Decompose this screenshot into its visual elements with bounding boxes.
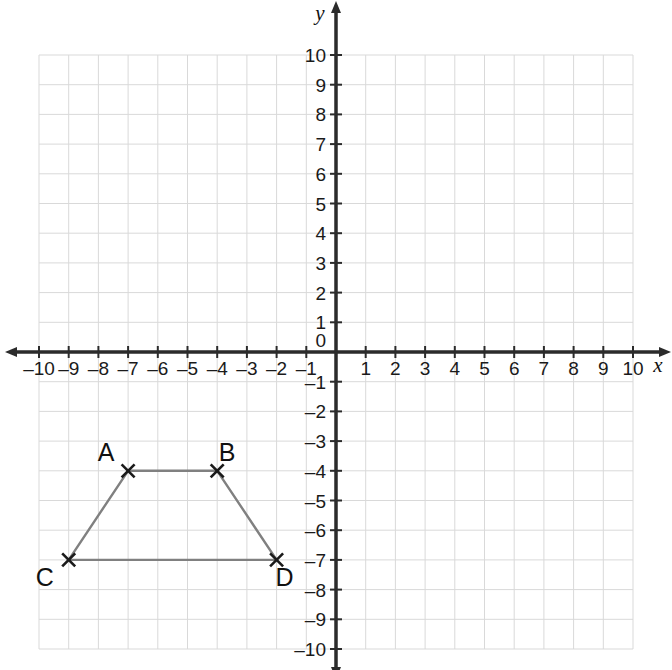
point-label-c: C	[36, 563, 54, 591]
x-tick-label: 1	[360, 358, 371, 379]
y-tick-label: –4	[305, 461, 327, 482]
y-tick-label: –10	[294, 639, 326, 660]
graph-canvas: –10–9–8–7–6–5–4–3–2–11234567891010987654…	[0, 0, 672, 670]
y-tick-label: –2	[305, 401, 326, 422]
y-axis-name: y	[313, 1, 325, 25]
y-tick-label: 3	[315, 253, 326, 274]
point-label-a: A	[98, 438, 115, 466]
y-tick-label: 5	[315, 194, 326, 215]
x-axis-name: x	[652, 353, 663, 377]
x-tick-label: 6	[509, 358, 520, 379]
point-label-d: D	[276, 563, 294, 591]
x-tick-label: 7	[539, 358, 550, 379]
x-tick-label: –2	[266, 358, 287, 379]
x-tick-label: –8	[88, 358, 109, 379]
y-tick-label: –6	[305, 520, 326, 541]
x-tick-label: 10	[622, 358, 643, 379]
x-tick-label: –3	[236, 358, 257, 379]
y-tick-label: –3	[305, 431, 326, 452]
y-tick-label: 9	[315, 75, 326, 96]
origin-label: 0	[315, 330, 326, 351]
coordinate-plane-figure: –10–9–8–7–6–5–4–3–2–11234567891010987654…	[0, 0, 672, 670]
point-label-b: B	[219, 438, 236, 466]
x-tick-label: 9	[598, 358, 609, 379]
y-tick-label: –1	[305, 372, 326, 393]
x-tick-label: 2	[390, 358, 401, 379]
x-tick-label: 5	[479, 358, 490, 379]
y-tick-label: 8	[315, 104, 326, 125]
x-tick-label: –9	[58, 358, 79, 379]
y-tick-label: 2	[315, 283, 326, 304]
x-tick-label: 3	[420, 358, 431, 379]
y-tick-label: –8	[305, 580, 326, 601]
x-tick-label: 4	[450, 358, 461, 379]
y-tick-label: –7	[305, 550, 326, 571]
x-tick-label: –4	[207, 358, 229, 379]
y-tick-label: –5	[305, 491, 326, 512]
x-tick-label: 8	[568, 358, 579, 379]
x-tick-label: –7	[118, 358, 139, 379]
y-tick-label: 4	[315, 223, 326, 244]
y-tick-label: 10	[305, 45, 326, 66]
y-tick-label: 6	[315, 164, 326, 185]
y-tick-label: –9	[305, 609, 326, 630]
y-tick-label: 7	[315, 134, 326, 155]
x-tick-label: –10	[23, 358, 55, 379]
x-tick-label: –5	[177, 358, 198, 379]
x-tick-label: –6	[147, 358, 168, 379]
